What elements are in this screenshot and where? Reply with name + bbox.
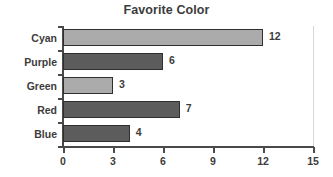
- y-axis-label-red: Red: [1, 104, 57, 116]
- x-tick: [263, 147, 265, 153]
- y-axis-label-blue: Blue: [1, 128, 57, 140]
- bar-row: 12: [63, 26, 313, 50]
- bar-value-blue: 4: [136, 126, 142, 138]
- bar-value-purple: 6: [169, 54, 175, 66]
- y-axis-label-cyan: Cyan: [1, 32, 57, 44]
- y-axis-label-purple: Purple: [1, 56, 57, 68]
- x-axis-label-9: 9: [198, 155, 228, 167]
- y-axis-label-green: Green: [1, 80, 57, 92]
- x-tick: [113, 147, 115, 153]
- bar-cyan[interactable]: [63, 29, 263, 46]
- bar-purple[interactable]: [63, 53, 163, 70]
- chart-title: Favorite Color: [0, 3, 333, 17]
- x-tick: [163, 147, 165, 153]
- bar-value-red: 7: [186, 102, 192, 114]
- bar-row: 7: [63, 98, 313, 122]
- x-axis-label-6: 6: [148, 155, 178, 167]
- x-axis-label-0: 0: [48, 155, 78, 167]
- bar-green[interactable]: [63, 77, 113, 94]
- bar-row: 3: [63, 74, 313, 98]
- bar-row: 6: [63, 50, 313, 74]
- bar-value-cyan: 12: [269, 30, 281, 42]
- x-tick: [313, 147, 315, 153]
- bar-red[interactable]: [63, 101, 180, 118]
- x-axis-label-15: 15: [298, 155, 328, 167]
- bar-blue[interactable]: [63, 125, 130, 142]
- plot-area: 126374: [63, 26, 313, 146]
- x-axis-line: [62, 146, 314, 148]
- x-axis-label-3: 3: [98, 155, 128, 167]
- bar-value-green: 3: [119, 78, 125, 90]
- bar-row: 4: [63, 122, 313, 146]
- y-axis-labels: CyanPurpleGreenRedBlue: [0, 26, 57, 146]
- bar-chart: Favorite Color CyanPurpleGreenRedBlue 12…: [0, 0, 333, 177]
- x-tick: [213, 147, 215, 153]
- x-axis-label-12: 12: [248, 155, 278, 167]
- x-tick: [63, 147, 65, 153]
